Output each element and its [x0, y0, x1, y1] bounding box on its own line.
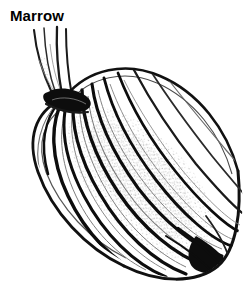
stem-strand-center	[57, 27, 62, 95]
stem-group	[34, 27, 72, 97]
stem-strand-right	[66, 29, 72, 96]
body-texture	[0, 0, 249, 285]
body-group	[0, 0, 249, 285]
marrow-illustration	[0, 0, 249, 285]
illustration-page: Marrow	[0, 0, 249, 285]
